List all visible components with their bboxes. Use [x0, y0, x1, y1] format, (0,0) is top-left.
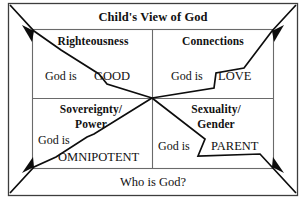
- quadrant-heading-sovereignty-line1: Sovereignty/: [33, 104, 149, 116]
- quadrant-statement-prefix-righteousness: God is: [45, 70, 77, 82]
- quadrant-heading-righteousness: Righteousness: [33, 36, 153, 48]
- quadrant-attribute-good: GOOD: [94, 70, 130, 83]
- quadrant-statement-prefix-sovereignty: God is: [38, 134, 70, 146]
- quadrant-attribute-parent: PARENT: [211, 140, 258, 153]
- diagram-footer-question: Who is God?: [0, 176, 306, 189]
- quadrant-heading-sexuality-line2: Gender: [158, 119, 274, 131]
- quadrant-statement-prefix-sexuality: God is: [158, 140, 190, 152]
- quadrant-statement-prefix-connections: God is: [171, 70, 203, 82]
- quadrant-heading-sovereignty-line2: Power: [33, 119, 149, 131]
- childs-view-of-god-diagram: Child's View of God Righteousness God is…: [0, 0, 306, 199]
- quadrant-heading-connections: Connections: [153, 36, 273, 48]
- diagram-title: Child's View of God: [0, 11, 306, 24]
- quadrant-attribute-omnipotent: OMNIPOTENT: [58, 151, 139, 164]
- quadrant-attribute-love: LOVE: [218, 70, 251, 83]
- quadrant-heading-sexuality-line1: Sexuality/: [158, 104, 274, 116]
- diagram-frame-and-arrows: [0, 0, 306, 199]
